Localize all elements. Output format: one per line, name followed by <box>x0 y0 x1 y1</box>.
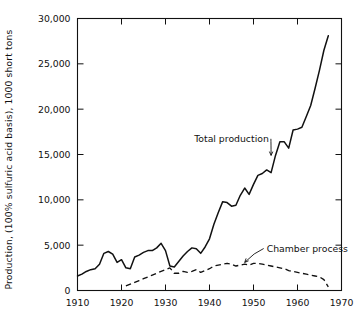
annotation-label-total-production: Total production <box>193 133 269 144</box>
y-tick-label: 25,000 <box>38 58 71 69</box>
annotation-group: Total productionChamber process <box>193 133 348 263</box>
y-tick-label: 0 <box>65 285 71 296</box>
x-tick-label: 1920 <box>110 297 134 308</box>
x-axis-ticks: 1910192019301940195019601970 <box>66 19 354 308</box>
chart-figure: Production, (100% sulfuric acid basis), … <box>0 0 357 319</box>
y-tick-label: 5,000 <box>44 240 71 251</box>
series-line-chamber-process <box>126 263 328 287</box>
y-tick-label: 10,000 <box>38 194 71 205</box>
y-tick-label: 15,000 <box>38 149 71 160</box>
x-tick-label: 1930 <box>154 297 178 308</box>
x-tick-label: 1960 <box>286 297 310 308</box>
annotation-leader-line <box>245 249 264 263</box>
x-tick-label: 1910 <box>66 297 90 308</box>
annotation-label-chamber-process: Chamber process <box>267 243 348 254</box>
y-tick-label: 30,000 <box>38 13 71 24</box>
x-tick-label: 1970 <box>330 297 354 308</box>
y-tick-label: 20,000 <box>38 104 71 115</box>
line-chart-plot: 05,00010,00015,00020,00025,00030,000 191… <box>0 0 357 319</box>
x-tick-label: 1950 <box>242 297 266 308</box>
series-line-total-production <box>78 36 329 276</box>
x-tick-label: 1940 <box>198 297 222 308</box>
